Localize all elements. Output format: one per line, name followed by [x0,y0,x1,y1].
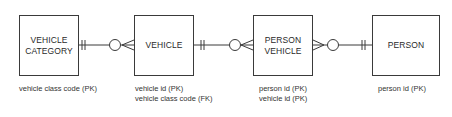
attribute: vehicle class code (FK) [135,94,213,104]
attribute: vehicle id (PK) [135,84,213,94]
entity-attributes-vehicle: vehicle id (PK) vehicle class code (FK) [135,84,213,104]
relationship-vehicle-person-vehicle [194,40,253,51]
zero-circle-icon [110,40,121,51]
entity-attributes-person-vehicle: person id (PK) vehicle id (PK) [259,84,307,104]
entity-person: PERSON [372,15,440,76]
zero-circle-icon [328,40,339,51]
entity-name: VEHICLE [145,40,182,51]
entity-name: PERSON [388,40,425,51]
zero-circle-icon [230,40,241,51]
attribute: person id (PK) [259,84,307,94]
attribute: vehicle class code (PK) [19,84,97,94]
entity-vehicle: VEHICLE [134,15,194,76]
entity-person-vehicle: PERSON VEHICLE [253,15,313,76]
entity-attributes-person: person id (PK) [378,84,426,94]
entity-vehicle-category: VEHICLE CATEGORY [19,15,79,76]
entity-name: PERSON VEHICLE [264,35,301,57]
relationship-vehicle-category-vehicle [78,40,134,51]
relationship-person-person-vehicle [313,40,372,51]
entity-attributes-vehicle-category: vehicle class code (PK) [19,84,97,94]
attribute: person id (PK) [378,84,426,94]
er-diagram: VEHICLE CATEGORY vehicle class code (PK)… [0,0,452,117]
entity-name: VEHICLE CATEGORY [25,35,73,57]
attribute: vehicle id (PK) [259,94,307,104]
